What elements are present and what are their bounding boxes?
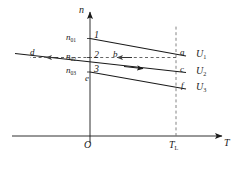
curve-line-2 bbox=[15, 54, 186, 73]
point-label-c: c bbox=[180, 65, 184, 74]
n02-base: n bbox=[66, 51, 71, 61]
curve-label-u3: U3 bbox=[196, 82, 206, 92]
point-label-a: a bbox=[180, 48, 185, 57]
line-number-1: 1 bbox=[94, 30, 99, 40]
x-axis-label: T bbox=[224, 138, 230, 148]
tl-base: T bbox=[169, 139, 175, 150]
u2-subscript: 2 bbox=[203, 70, 206, 77]
n03-base: n bbox=[66, 65, 71, 75]
y-axis-label: n bbox=[79, 5, 84, 15]
curve-line-3 bbox=[90, 72, 186, 89]
curve-line-1 bbox=[90, 39, 186, 57]
point-label-d: d bbox=[30, 48, 35, 57]
origin-label: O bbox=[84, 140, 91, 150]
curve-label-u1: U1 bbox=[196, 49, 206, 59]
x-tick-label-tl: TL bbox=[169, 140, 178, 150]
line-number-3: 3 bbox=[94, 64, 99, 74]
line-number-2: 2 bbox=[94, 50, 99, 60]
point-label-f: f bbox=[181, 81, 184, 90]
point-label-b: b bbox=[113, 50, 118, 59]
n01-base: n bbox=[66, 32, 71, 42]
y-tick-label-n03: n03 bbox=[66, 66, 76, 75]
y-tick-label-n01: n01 bbox=[66, 33, 76, 42]
curve-label-u2: U2 bbox=[196, 66, 206, 76]
figure-container: n T O TL n01 n02 n03 1 2 3 U1 U2 U3 a b … bbox=[0, 0, 238, 169]
n01-subscript: 01 bbox=[71, 37, 77, 43]
point-label-e: e bbox=[85, 74, 89, 83]
n02-subscript: 02 bbox=[71, 56, 77, 62]
tl-subscript: L bbox=[175, 144, 179, 151]
n03-subscript: 03 bbox=[71, 70, 77, 76]
u3-subscript: 3 bbox=[203, 86, 206, 93]
u1-subscript: 1 bbox=[203, 53, 206, 60]
y-tick-label-n02: n02 bbox=[66, 52, 76, 61]
